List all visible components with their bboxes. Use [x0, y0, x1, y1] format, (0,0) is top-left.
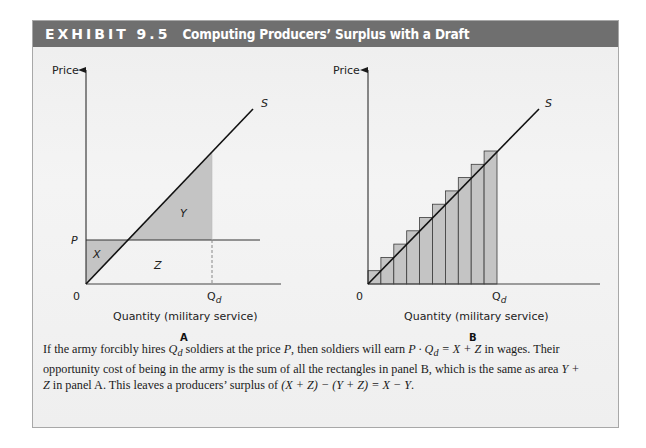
caption-text: cost of being in the army is the sum of … — [103, 362, 562, 376]
caption-text: in panel A. This leaves — [50, 378, 164, 392]
panel-a: Price S P X Y Z 0 Qd Quantity (military … — [52, 64, 281, 343]
opportunity-cost-rectangle — [445, 191, 458, 284]
price-label: P — [71, 234, 78, 247]
qd-label: Q — [492, 290, 501, 303]
supply-label: S — [261, 97, 268, 110]
opportunity-cost-rectangle — [458, 178, 471, 284]
supply-label: S — [545, 97, 552, 110]
origin-label: 0 — [73, 290, 80, 303]
qd-tick-label: Qd — [492, 290, 507, 305]
opportunity-cost-rectangle — [471, 164, 484, 284]
caption-text: If the army forcibly hires — [43, 342, 169, 356]
x-axis-label: Quantity (military service) — [404, 310, 548, 323]
caption-wage-eq2: = X + Z — [438, 342, 481, 356]
caption-text: . — [411, 378, 414, 392]
qd-subscript: d — [501, 295, 507, 305]
caption-text: , then soldiers will earn — [291, 342, 408, 356]
opportunity-cost-rectangle — [420, 218, 433, 285]
exhibit-caption: If the army forcibly hires Qd soldiers a… — [43, 341, 588, 393]
area-z-label: Z — [153, 259, 162, 272]
panel-b: Price S 0 Qd Quantity (military service)… — [333, 64, 600, 343]
area-x-label: X — [92, 248, 101, 261]
qd-label: Q — [207, 290, 216, 303]
y-axis-label: Price — [333, 64, 360, 77]
caption-text: soldiers at the price — [182, 342, 283, 356]
caption-text: a producers’ surplus of — [167, 378, 281, 392]
qd-subscript: d — [216, 295, 222, 305]
x-axis-label: Quantity (military service) — [113, 310, 257, 323]
y-axis-label: Price — [52, 64, 79, 77]
opportunity-cost-rectangle — [484, 151, 497, 284]
caption-p: P — [284, 342, 291, 356]
caption-wage-eq: P · Q — [408, 342, 433, 356]
caption-surplus-eq: (X + Z) − (Y + Z) = X − Y — [281, 378, 411, 392]
qd-tick-label: Qd — [207, 290, 222, 305]
opportunity-cost-rectangle — [381, 257, 394, 284]
origin-label: 0 — [356, 290, 363, 303]
